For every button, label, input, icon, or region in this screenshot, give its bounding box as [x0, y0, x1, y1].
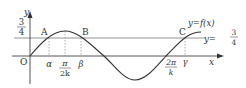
curve-label: y=f(x) [187, 18, 215, 28]
line-label-prefix: y= [203, 34, 216, 44]
x-tick-2pi-over-k-numerator: 2π [165, 58, 177, 67]
x-tick-alpha: α [46, 59, 52, 69]
point-c-label: C [179, 27, 186, 37]
line-label-numerator: 3 [232, 28, 237, 37]
y-tick-numerator: 3 [19, 17, 24, 27]
x-tick-pi-over-2k-denominator: 2k [60, 69, 70, 78]
function-graph: y 3 4 O A B C α π 2k β 2π k γ x y=f(x) y… [0, 0, 246, 88]
x-tick-gamma: γ [182, 57, 188, 67]
x-tick-beta: β [78, 59, 84, 69]
x-tick-2pi-over-k-denominator: k [169, 68, 174, 77]
origin-label: O [20, 57, 27, 67]
line-label-denominator: 4 [232, 38, 237, 47]
x-axis-label: x [209, 57, 214, 67]
y-axis-label: y [23, 7, 30, 17]
x-axis-arrow-icon [217, 54, 224, 59]
point-b-label: B [82, 27, 89, 37]
point-a-label: A [40, 27, 48, 37]
dotted-guides [49, 31, 185, 56]
y-tick-denominator: 4 [19, 27, 24, 37]
x-tick-pi-over-2k-numerator: π [61, 59, 68, 68]
